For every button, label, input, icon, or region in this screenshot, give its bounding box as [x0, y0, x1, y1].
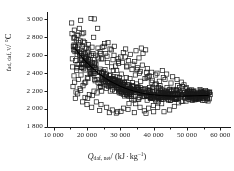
x-axis-separator: / (kJ	[111, 152, 125, 161]
x-tick-label: 50 000	[171, 132, 203, 139]
y-tick-label: 3 000	[27, 16, 43, 23]
x-axis-unit: kg	[130, 152, 138, 161]
y-axis-unit: °C	[4, 34, 13, 43]
x-axis-subscript: daf, net	[94, 155, 111, 161]
y-axis-separator: /	[4, 45, 13, 47]
x-axis-close-paren: )	[144, 152, 147, 161]
y-axis-title: tad, daf, V/ °C	[4, 15, 13, 91]
x-tick-label: 40 000	[138, 132, 170, 139]
y-tick-label: 2 200	[27, 88, 43, 95]
chart-figure: 1 8002 0002 2002 4002 6002 8003 000 10 0…	[0, 0, 234, 171]
x-tick-label: 20 000	[71, 132, 103, 139]
x-tick-label: 10 000	[38, 132, 70, 139]
y-tick-label: 2 800	[27, 34, 43, 41]
x-tick-label: 60 000	[204, 132, 234, 139]
y-tick-label: 2 000	[27, 105, 43, 112]
y-tick-label: 2 600	[27, 52, 43, 59]
y-tick-label: 1 800	[27, 123, 43, 130]
y-axis-symbol: t	[4, 69, 13, 71]
x-tick-label: 30 000	[104, 132, 136, 139]
x-axis-title: Qdaf, net/ (kJ·kg−1)	[0, 151, 234, 161]
y-axis-subscript: ad, daf, V	[6, 47, 12, 69]
chart-canvas	[0, 0, 234, 171]
y-tick-label: 2 400	[27, 70, 43, 77]
